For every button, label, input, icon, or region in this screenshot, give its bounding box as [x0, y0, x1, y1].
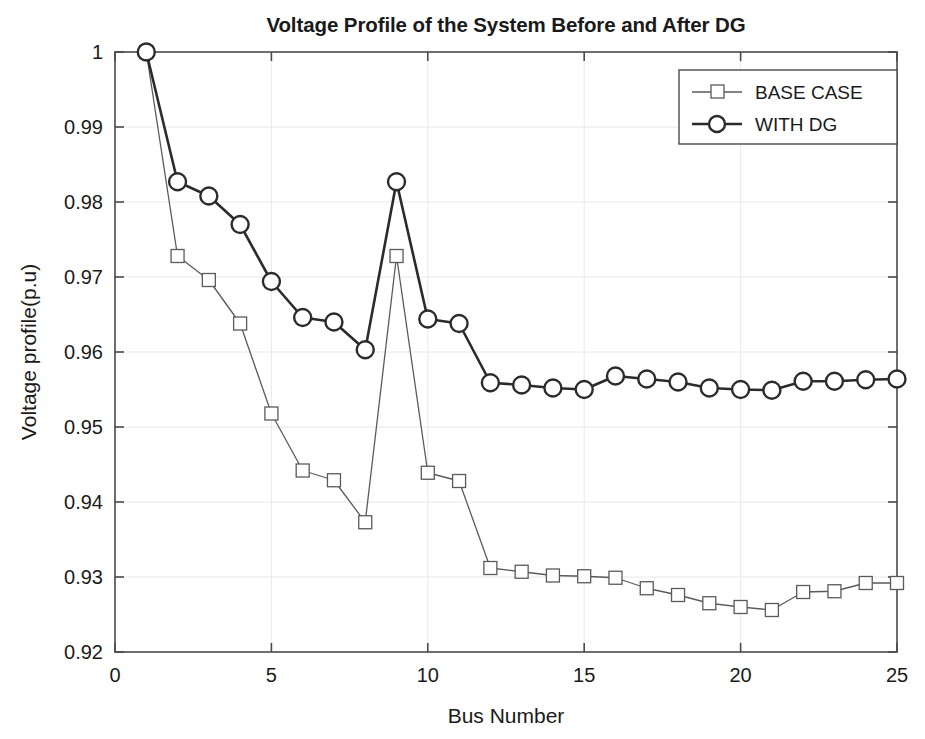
- x-tick-label: 15: [573, 664, 595, 686]
- y-tick-label: 0.98: [64, 191, 103, 213]
- data-point-marker: [327, 474, 340, 487]
- data-point-marker: [703, 597, 716, 610]
- y-tick-label: 0.94: [64, 491, 103, 513]
- data-point-marker: [765, 604, 778, 617]
- data-point-marker: [453, 475, 466, 488]
- x-tick-label: 20: [729, 664, 751, 686]
- y-tick-label: 0.99: [64, 116, 103, 138]
- legend-marker-square-icon: [711, 85, 724, 98]
- data-point-marker: [202, 274, 215, 287]
- data-point-marker: [576, 381, 593, 398]
- data-point-marker: [294, 309, 311, 326]
- data-point-marker: [265, 407, 278, 420]
- data-point-marker: [234, 317, 247, 330]
- data-point-marker: [857, 371, 874, 388]
- data-point-marker: [451, 315, 468, 332]
- x-axis-title: Bus Number: [448, 704, 565, 727]
- data-point-marker: [859, 577, 872, 590]
- y-tick-label: 0.96: [64, 341, 103, 363]
- data-point-marker: [640, 582, 653, 595]
- data-point-marker: [826, 373, 843, 390]
- data-point-marker: [734, 601, 747, 614]
- data-point-marker: [795, 373, 812, 390]
- data-point-marker: [607, 368, 624, 385]
- y-tick-label: 0.95: [64, 416, 103, 438]
- data-point-marker: [515, 565, 528, 578]
- data-point-marker: [296, 464, 309, 477]
- data-point-marker: [421, 466, 434, 479]
- data-point-marker: [388, 173, 405, 190]
- data-point-marker: [701, 380, 718, 397]
- data-point-marker: [546, 569, 559, 582]
- voltage-profile-chart: Voltage Profile of the System Before and…: [0, 0, 925, 739]
- y-tick-label: 0.93: [64, 566, 103, 588]
- data-point-marker: [763, 382, 780, 399]
- data-point-marker: [138, 44, 155, 61]
- data-point-marker: [732, 381, 749, 398]
- data-point-marker: [200, 188, 217, 205]
- data-point-marker: [419, 311, 436, 328]
- data-point-marker: [482, 374, 499, 391]
- data-point-marker: [578, 570, 591, 583]
- data-point-marker: [484, 562, 497, 575]
- legend-label-base-case: BASE CASE: [755, 82, 863, 103]
- data-point-marker: [171, 250, 184, 263]
- chart-title: Voltage Profile of the System Before and…: [266, 13, 745, 36]
- data-point-marker: [797, 586, 810, 599]
- chart-figure: Voltage Profile of the System Before and…: [0, 0, 925, 739]
- y-axis-title: Voltage profile(p.u): [17, 264, 40, 440]
- data-point-marker: [325, 314, 342, 331]
- data-point-marker: [638, 371, 655, 388]
- x-tick-label: 0: [109, 664, 120, 686]
- y-tick-label: 0.97: [64, 266, 103, 288]
- chart-legend[interactable]: BASE CASE WITH DG: [679, 70, 897, 144]
- legend-label-with-dg: WITH DG: [755, 114, 837, 135]
- legend-marker-circle-icon: [709, 116, 725, 132]
- data-point-marker: [232, 216, 249, 233]
- data-point-marker: [263, 273, 280, 290]
- y-tick-labels: 0.920.930.940.950.960.970.980.991: [64, 41, 103, 663]
- data-point-marker: [828, 585, 841, 598]
- data-point-marker: [357, 341, 374, 358]
- data-point-marker: [889, 371, 906, 388]
- x-tick-label: 5: [266, 664, 277, 686]
- y-tick-label: 0.92: [64, 641, 103, 663]
- y-tick-label: 1: [92, 41, 103, 63]
- data-point-marker: [169, 173, 186, 190]
- data-point-marker: [609, 571, 622, 584]
- data-point-marker: [359, 516, 372, 529]
- data-point-marker: [672, 589, 685, 602]
- data-point-marker: [891, 577, 904, 590]
- data-point-marker: [513, 377, 530, 394]
- data-point-marker: [390, 250, 403, 263]
- data-point-marker: [670, 374, 687, 391]
- x-tick-label: 10: [417, 664, 439, 686]
- x-tick-label: 25: [886, 664, 908, 686]
- data-point-marker: [544, 380, 561, 397]
